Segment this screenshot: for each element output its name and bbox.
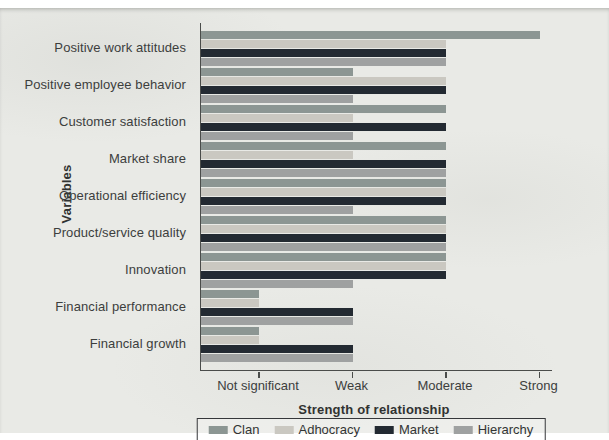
category-label-operational-efficiency: Operational efficiency xyxy=(0,179,186,214)
bar-market-positive-work-attitudes xyxy=(201,49,446,57)
bar-clan-innovation xyxy=(201,253,446,261)
bar-group-financial-performance xyxy=(201,290,552,325)
bar-clan-product-service-quality xyxy=(201,216,446,224)
bar-clan-financial-growth xyxy=(201,327,259,335)
bar-market-operational-efficiency xyxy=(201,197,446,205)
bar-adhocracy-positive-work-attitudes xyxy=(201,40,446,48)
legend-swatch-hierarchy-icon xyxy=(454,426,473,434)
x-tick-label-not-significant: Not significant xyxy=(217,378,299,393)
category-label-market-share: Market share xyxy=(0,142,186,177)
bar-group-innovation xyxy=(201,253,552,288)
bar-clan-financial-performance xyxy=(201,290,259,298)
bar-hierarchy-product-service-quality xyxy=(201,243,446,251)
bar-group-product-service-quality xyxy=(201,216,552,251)
legend-item-hierarchy: Hierarchy xyxy=(454,422,534,437)
bar-market-innovation xyxy=(201,271,446,279)
category-label-financial-performance: Financial performance xyxy=(0,290,186,325)
bar-clan-customer-satisfaction xyxy=(201,105,446,113)
category-label-innovation: Innovation xyxy=(0,253,186,288)
bar-adhocracy-positive-employee-behavior xyxy=(201,77,446,85)
legend: ClanAdhocracyMarketHierarchy xyxy=(197,418,546,440)
x-tick-label-weak: Weak xyxy=(335,378,368,393)
x-axis-title: Strength of relationship xyxy=(298,402,449,417)
x-tick-labels: Not significantWeakModerateStrong xyxy=(200,378,560,394)
bar-group-operational-efficiency xyxy=(201,179,552,214)
category-labels: Positive work attitudesPositive employee… xyxy=(0,23,193,370)
bar-group-customer-satisfaction xyxy=(201,105,552,140)
bar-groups xyxy=(201,23,552,370)
bar-adhocracy-financial-growth xyxy=(201,336,259,344)
bar-hierarchy-financial-performance xyxy=(201,317,353,325)
x-tick-moderate xyxy=(445,372,447,378)
chart-figure: Variables Positive work attitudesPositiv… xyxy=(0,8,609,433)
legend-item-adhocracy: Adhocracy xyxy=(274,422,359,437)
x-tick-label-strong: Strong xyxy=(519,378,557,393)
bar-clan-operational-efficiency xyxy=(201,179,446,187)
bar-adhocracy-innovation xyxy=(201,262,446,270)
bar-adhocracy-financial-performance xyxy=(201,299,259,307)
x-tick-weak xyxy=(352,372,354,378)
bar-clan-positive-employee-behavior xyxy=(201,68,353,76)
legend-item-market: Market xyxy=(375,422,439,437)
legend-label-market: Market xyxy=(399,422,439,437)
category-label-financial-growth: Financial growth xyxy=(0,327,186,362)
figure-page: Variables Positive work attitudesPositiv… xyxy=(0,0,609,440)
bar-hierarchy-positive-employee-behavior xyxy=(201,95,353,103)
plot-area xyxy=(200,23,552,371)
legend-item-clan: Clan xyxy=(209,422,260,437)
bar-hierarchy-innovation xyxy=(201,280,353,288)
x-tick-label-moderate: Moderate xyxy=(418,378,473,393)
bar-hierarchy-positive-work-attitudes xyxy=(201,58,446,66)
bar-market-market-share xyxy=(201,160,446,168)
x-tick-not-significant xyxy=(258,372,260,378)
legend-label-adhocracy: Adhocracy xyxy=(298,422,359,437)
bar-market-positive-employee-behavior xyxy=(201,86,446,94)
legend-swatch-market-icon xyxy=(375,426,394,434)
legend-swatch-clan-icon xyxy=(209,426,228,434)
bar-adhocracy-customer-satisfaction xyxy=(201,114,353,122)
category-label-positive-work-attitudes: Positive work attitudes xyxy=(0,31,186,66)
category-label-customer-satisfaction: Customer satisfaction xyxy=(0,105,186,140)
bar-market-customer-satisfaction xyxy=(201,123,446,131)
bar-market-product-service-quality xyxy=(201,234,446,242)
bar-group-financial-growth xyxy=(201,327,552,362)
bar-adhocracy-market-share xyxy=(201,151,353,159)
x-tick-strong xyxy=(539,372,541,378)
bar-hierarchy-financial-growth xyxy=(201,354,353,362)
legend-label-clan: Clan xyxy=(233,422,260,437)
bar-group-market-share xyxy=(201,142,552,177)
bar-market-financial-performance xyxy=(201,308,353,316)
bar-clan-positive-work-attitudes xyxy=(201,31,540,39)
bar-hierarchy-customer-satisfaction xyxy=(201,132,353,140)
bar-adhocracy-operational-efficiency xyxy=(201,188,446,196)
bar-hierarchy-market-share xyxy=(201,169,446,177)
legend-swatch-adhocracy-icon xyxy=(274,426,293,434)
bar-market-financial-growth xyxy=(201,345,353,353)
bar-clan-market-share xyxy=(201,142,446,150)
legend-label-hierarchy: Hierarchy xyxy=(478,422,534,437)
category-label-positive-employee-behavior: Positive employee behavior xyxy=(0,68,186,103)
bar-group-positive-employee-behavior xyxy=(201,68,552,103)
bar-group-positive-work-attitudes xyxy=(201,31,552,66)
category-label-product-service-quality: Product/service quality xyxy=(0,216,186,251)
bar-adhocracy-product-service-quality xyxy=(201,225,446,233)
bar-hierarchy-operational-efficiency xyxy=(201,206,353,214)
